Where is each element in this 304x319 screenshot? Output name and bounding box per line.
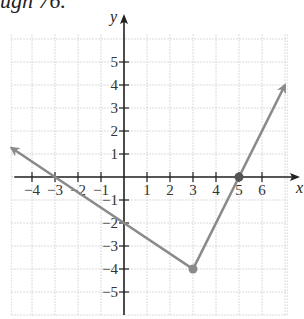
x-tick-label: 4 [212,182,220,198]
x-tick-label: −3 [47,182,63,198]
y-tick-label: 1 [111,146,119,162]
y-tick-label: −5 [102,284,118,300]
y-tick-label: −1 [102,192,118,208]
y-axis-label: y [108,8,118,26]
x-tick-label: 2 [166,182,174,198]
y-tick-label: 4 [111,77,119,93]
marked-point [189,265,198,274]
x-tick-label: −4 [24,182,40,198]
x-axis-label: x [295,179,303,196]
marked-point [235,173,244,182]
y-tick-label: −3 [102,238,118,254]
y-tick-label: 2 [111,123,119,139]
y-tick-label: −4 [102,261,118,277]
coordinate-plane: xy−4−3−2−112345654321−1−2−3−4−5 [0,0,304,319]
y-tick-label: 5 [111,54,119,70]
x-tick-label: 6 [258,182,266,198]
y-tick-label: 3 [111,100,119,116]
x-tick-label: 1 [143,182,151,198]
x-tick-label: 3 [189,182,197,198]
